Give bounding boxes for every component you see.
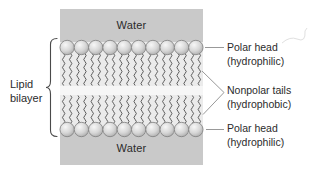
pen-mark-top-right-icon bbox=[282, 28, 307, 43]
lipid-bilayer-figure: Water Water Lipid bilayer Polar head (hy… bbox=[0, 0, 311, 173]
leader-line-nonpolar-tails bbox=[202, 71, 224, 115]
polar-head bbox=[146, 40, 160, 54]
polar-head bbox=[131, 122, 145, 136]
polar-head bbox=[131, 40, 145, 54]
polar-head bbox=[74, 40, 88, 54]
polar-head bbox=[189, 122, 203, 136]
polar-head bbox=[160, 40, 174, 54]
polar-head bbox=[160, 122, 174, 136]
polar-head bbox=[89, 122, 103, 136]
polar-head bbox=[117, 122, 131, 136]
nonpolar-tails-line2: (hydrophobic) bbox=[227, 97, 291, 111]
polar-head bbox=[89, 40, 103, 54]
hydrophobic-gap bbox=[60, 86, 203, 95]
polar-head bbox=[174, 122, 188, 136]
polar-head-bottom-line2: (hydrophilic) bbox=[227, 135, 284, 149]
polar-head bbox=[117, 40, 131, 54]
water-label-top: Water bbox=[60, 19, 203, 32]
nonpolar-tails-line1: Nonpolar tails bbox=[227, 83, 291, 97]
polar-head bbox=[146, 122, 160, 136]
nonpolar-tails-label: Nonpolar tails (hydrophobic) bbox=[227, 83, 291, 111]
polar-head-bottom-label: Polar head (hydrophilic) bbox=[227, 121, 284, 149]
polar-head bbox=[103, 122, 117, 136]
polar-head-top-line1: Polar head bbox=[227, 40, 284, 54]
polar-head bbox=[103, 40, 117, 54]
polar-head bbox=[174, 40, 188, 54]
polar-head bbox=[60, 122, 74, 136]
polar-head bbox=[74, 122, 88, 136]
polar-head-top-label: Polar head (hydrophilic) bbox=[227, 40, 284, 68]
polar-head-top-line2: (hydrophilic) bbox=[227, 54, 284, 68]
water-label-bottom: Water bbox=[60, 142, 203, 155]
lipid-bilayer-label: Lipid bilayer bbox=[10, 77, 58, 105]
polar-head bbox=[60, 40, 74, 54]
polar-head-bottom-line1: Polar head bbox=[227, 121, 284, 135]
polar-head bbox=[189, 40, 203, 54]
